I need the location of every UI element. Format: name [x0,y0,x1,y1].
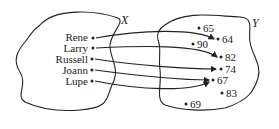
y-element: 90 [197,39,208,50]
y-element: 69 [190,99,201,110]
y-element: 83 [226,88,237,99]
y-element: 65 [203,23,214,34]
y-element: 67 [217,75,228,86]
y-element: 82 [225,52,236,63]
arrow-joann-67 [95,70,209,80]
y-element: 64 [222,34,233,45]
mapping-diagram [0,0,279,129]
set-x-label: X [121,13,128,28]
set-y-label: Y [252,16,259,31]
x-element: Lupe [65,76,88,87]
